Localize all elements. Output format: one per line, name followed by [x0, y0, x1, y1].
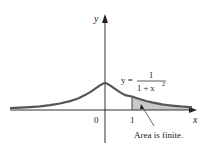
svg-text:1 + x: 1 + x	[137, 83, 155, 93]
svg-text:y =: y =	[121, 75, 133, 85]
y-axis-label: y	[93, 13, 99, 24]
x-axis-label: x	[192, 114, 198, 125]
figure: y x 0 1 y = 1 1 + x 2 Area is finite.	[0, 0, 201, 153]
tick-label-0: 0	[94, 115, 99, 125]
svg-text:2: 2	[162, 81, 165, 87]
y-axis-arrow-icon	[102, 14, 108, 23]
svg-text:1: 1	[149, 70, 153, 80]
tick-label-1: 1	[130, 115, 135, 125]
annotation-text: Area is finite.	[134, 130, 183, 140]
equation: y = 1 1 + x 2	[121, 70, 166, 93]
